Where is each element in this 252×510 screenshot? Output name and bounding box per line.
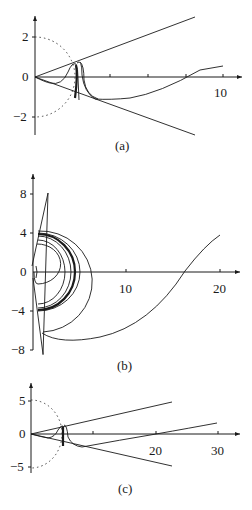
x-tick-label: 10 <box>214 85 227 100</box>
figure: 2 0 −2 10 (a) 8 4 0 −4 −8 10 20 <box>0 0 252 510</box>
y-tick-label: −8 <box>11 342 25 357</box>
y-tick-label: 0 <box>22 69 29 84</box>
x-tick-label: 30 <box>211 443 224 458</box>
trajectory <box>77 62 223 99</box>
x-tick-label: 20 <box>149 443 162 458</box>
trajectory <box>31 426 63 446</box>
caption-c: (c) <box>118 481 132 496</box>
y-tick-label: 8 <box>20 186 27 201</box>
x-tick-label: 10 <box>119 281 132 296</box>
y-tick-label: −2 <box>13 109 27 124</box>
panel-c: 5 0 −5 20 30 <box>10 383 240 474</box>
y-tick-label: 5 <box>19 393 26 408</box>
upper-line <box>31 402 172 434</box>
y-tick-label: 0 <box>19 426 26 441</box>
caption-a: (a) <box>115 138 129 153</box>
caption-b: (b) <box>117 358 132 373</box>
y-tick-label: −5 <box>10 459 24 474</box>
trajectory-dense <box>75 65 77 98</box>
steep-line <box>43 193 48 355</box>
y-tick-label: 2 <box>22 29 29 44</box>
y-tick-label: −4 <box>11 303 25 318</box>
upper-line <box>35 17 195 77</box>
y-tick-label: 4 <box>20 225 27 240</box>
panel-b: 8 4 0 −4 −8 10 20 <box>11 174 240 357</box>
lower-line <box>35 77 195 135</box>
x-tick-label: 20 <box>213 281 226 296</box>
panel-a: 2 0 −2 10 <box>13 16 242 135</box>
trajectory <box>64 423 217 447</box>
y-tick-label: 0 <box>20 264 27 279</box>
